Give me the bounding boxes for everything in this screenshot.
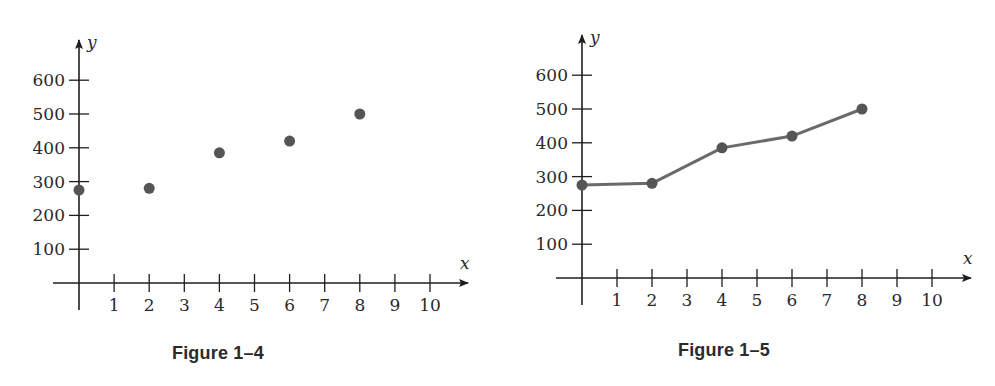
x-tick-label: 7 bbox=[319, 295, 330, 315]
x-tick-label: 3 bbox=[682, 290, 693, 310]
x-tick-label: 5 bbox=[752, 290, 763, 310]
x-tick-label: 7 bbox=[822, 290, 833, 310]
y-tick-label: 200 bbox=[33, 205, 65, 225]
x-axis-label: x bbox=[963, 248, 973, 268]
y-tick-label: 100 bbox=[33, 239, 65, 259]
data-point bbox=[214, 147, 225, 158]
data-point bbox=[647, 178, 658, 189]
data-point bbox=[144, 183, 155, 194]
y-axis-label: y bbox=[589, 27, 600, 47]
axes: 12345678910100200300400500600 bbox=[33, 40, 468, 315]
x-tick-label: 3 bbox=[179, 295, 190, 315]
x-tick-label: 2 bbox=[144, 295, 155, 315]
x-tick-label: 9 bbox=[389, 295, 400, 315]
y-tick-label: 100 bbox=[536, 234, 568, 254]
figure-caption: Figure 1–4 bbox=[172, 343, 264, 363]
figure-1-5-line-plot: 12345678910100200300400500600 x y Figure… bbox=[536, 27, 973, 360]
x-tick-label: 8 bbox=[857, 290, 868, 310]
x-tick-label: 5 bbox=[249, 295, 260, 315]
figure-1-4-scatter-plot: 12345678910100200300400500600 x y Figure… bbox=[33, 32, 470, 363]
y-tick-label: 600 bbox=[536, 65, 568, 85]
data-point bbox=[857, 104, 868, 115]
x-tick-label: 1 bbox=[109, 295, 120, 315]
axes: 12345678910100200300400500600 bbox=[536, 35, 971, 310]
y-axis-label: y bbox=[86, 32, 97, 52]
y-tick-label: 400 bbox=[536, 133, 568, 153]
data-point bbox=[284, 136, 295, 147]
data-points bbox=[74, 109, 366, 196]
x-tick-label: 10 bbox=[419, 295, 441, 315]
y-tick-label: 500 bbox=[33, 104, 65, 124]
data-point bbox=[354, 109, 365, 120]
x-tick-label: 6 bbox=[284, 295, 295, 315]
x-axis-label: x bbox=[460, 253, 470, 273]
y-tick-label: 300 bbox=[33, 172, 65, 192]
x-tick-label: 8 bbox=[354, 295, 365, 315]
x-tick-label: 4 bbox=[214, 295, 225, 315]
data-point bbox=[577, 180, 588, 191]
figure-canvas: 12345678910100200300400500600 x y Figure… bbox=[0, 0, 995, 386]
y-tick-label: 600 bbox=[33, 70, 65, 90]
y-tick-label: 300 bbox=[536, 167, 568, 187]
figure-caption: Figure 1–5 bbox=[678, 340, 770, 360]
x-tick-label: 10 bbox=[921, 290, 943, 310]
data-point bbox=[787, 131, 798, 142]
x-tick-label: 6 bbox=[787, 290, 798, 310]
x-tick-label: 1 bbox=[612, 290, 623, 310]
data-point bbox=[717, 142, 728, 153]
y-tick-label: 500 bbox=[536, 99, 568, 119]
x-tick-label: 4 bbox=[717, 290, 728, 310]
data-line-with-points bbox=[577, 104, 868, 191]
x-tick-label: 9 bbox=[892, 290, 903, 310]
x-tick-label: 2 bbox=[647, 290, 658, 310]
data-point bbox=[74, 185, 85, 196]
y-tick-label: 400 bbox=[33, 138, 65, 158]
y-tick-label: 200 bbox=[536, 200, 568, 220]
